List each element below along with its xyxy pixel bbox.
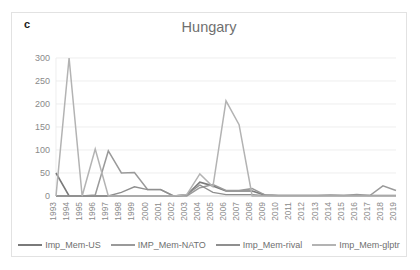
chart-legend: Imp_Mem-USIMP_Mem-NATOImp_Mem-rivalImp_M… bbox=[12, 240, 406, 250]
x-axis-tick-label: 1999 bbox=[126, 202, 136, 221]
x-axis-tick-label: 2019 bbox=[388, 202, 398, 221]
y-axis-tick-label: 200 bbox=[35, 99, 50, 109]
x-axis-tick-label: 1993 bbox=[48, 202, 58, 221]
x-axis-tick-label: 1997 bbox=[100, 202, 110, 221]
x-axis-tick-label: 2006 bbox=[218, 202, 228, 221]
x-axis-tick-label: 2016 bbox=[349, 202, 359, 221]
y-axis-tick-label: 0 bbox=[45, 191, 50, 201]
x-axis-tick-label: 2011 bbox=[283, 202, 293, 220]
legend-swatch-icon bbox=[111, 244, 135, 246]
x-axis-tick-label: 2013 bbox=[310, 202, 320, 221]
x-axis-tick-label: 1994 bbox=[61, 202, 71, 221]
x-axis-tick-label: 2009 bbox=[257, 202, 267, 221]
legend-item-Imp_Mem-US[interactable]: Imp_Mem-US bbox=[13, 240, 106, 250]
legend-label: Imp_Mem-glptr bbox=[339, 240, 400, 250]
y-axis-tick-label: 300 bbox=[35, 53, 50, 63]
x-axis-tick-label: 2007 bbox=[231, 202, 241, 221]
legend-swatch-icon bbox=[18, 244, 42, 246]
x-axis-tick-label: 2001 bbox=[153, 202, 163, 221]
legend-item-Imp_Mem-glptr[interactable]: Imp_Mem-glptr bbox=[307, 240, 405, 250]
y-axis-tick-label: 100 bbox=[35, 145, 50, 155]
x-axis-tick-label: 2004 bbox=[192, 202, 202, 221]
x-axis-tick-label: 2014 bbox=[323, 202, 333, 221]
x-axis-tick-label: 2010 bbox=[270, 202, 280, 221]
x-axis-tick-label: 2005 bbox=[205, 202, 215, 221]
x-axis-tick-label: 1998 bbox=[113, 202, 123, 221]
legend-item-IMP_Mem-NATO[interactable]: IMP_Mem-NATO bbox=[106, 240, 211, 250]
legend-swatch-icon bbox=[312, 244, 336, 246]
legend-label: Imp_Mem-US bbox=[45, 240, 101, 250]
x-axis-tick-label: 2008 bbox=[244, 202, 254, 221]
x-axis-tick-label: 2002 bbox=[166, 202, 176, 221]
plot-area: 0501001502002503001993199419951996199719… bbox=[12, 13, 408, 258]
y-axis-tick-label: 50 bbox=[40, 168, 50, 178]
x-axis-tick-label: 2003 bbox=[179, 202, 189, 221]
x-axis-tick-label: 2018 bbox=[375, 202, 385, 221]
line-chart-svg: 0501001502002503001993199419951996199719… bbox=[12, 13, 408, 258]
legend-label: IMP_Mem-NATO bbox=[138, 240, 206, 250]
y-axis-tick-label: 250 bbox=[35, 76, 50, 86]
x-axis-tick-label: 2000 bbox=[140, 202, 150, 221]
x-axis-tick-label: 1995 bbox=[74, 202, 84, 221]
legend-label: Imp_Mem-rival bbox=[243, 240, 303, 250]
legend-item-Imp_Mem-rival[interactable]: Imp_Mem-rival bbox=[211, 240, 308, 250]
y-axis-tick-label: 150 bbox=[35, 122, 50, 132]
x-axis-tick-label: 2015 bbox=[336, 202, 346, 221]
x-axis-tick-label: 2017 bbox=[362, 202, 372, 221]
x-axis-tick-label: 2012 bbox=[296, 202, 306, 221]
legend-swatch-icon bbox=[216, 244, 240, 246]
x-axis-tick-label: 1996 bbox=[87, 202, 97, 221]
chart-card: c Hungary 050100150200250300199319941995… bbox=[11, 12, 407, 257]
